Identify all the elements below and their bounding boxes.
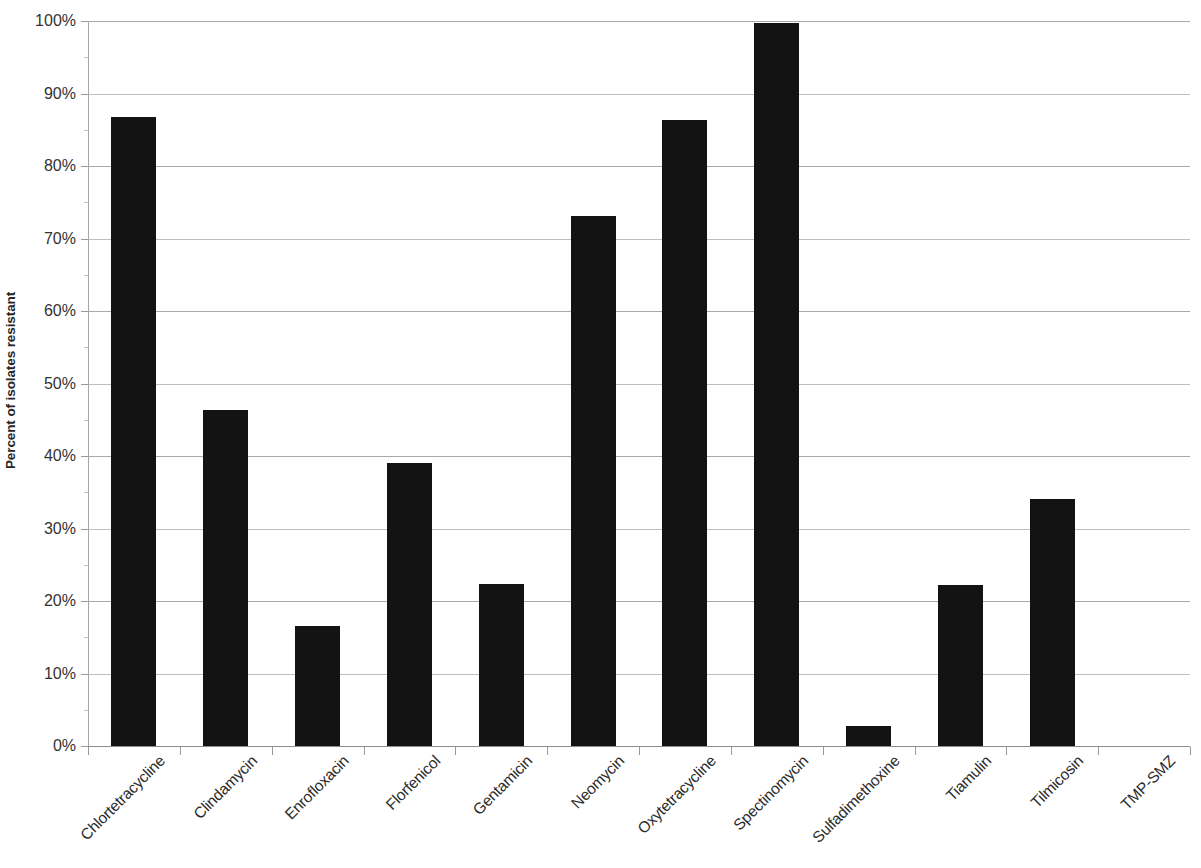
bar [295, 626, 340, 746]
bar [571, 216, 616, 746]
bar [846, 726, 891, 746]
y-axis-title-text: Percent of isolates resistant [4, 291, 19, 468]
gridline [88, 94, 1190, 95]
y-axis-tick-label: 40% [18, 448, 76, 464]
y-tick-mark [81, 384, 88, 385]
x-axis-label-text: Sulfadimethoxine [809, 752, 904, 847]
gridline [88, 166, 1190, 167]
y-axis-tick-label: 90% [18, 86, 76, 102]
y-axis-line [88, 21, 89, 747]
gridline [88, 674, 1190, 675]
x-axis-label-text: Clindamycin [190, 752, 261, 823]
y-tick-mark [81, 94, 88, 95]
bar [938, 585, 983, 746]
bar [111, 117, 156, 746]
y-tick-mark [81, 529, 88, 530]
y-tick-mark [81, 746, 88, 747]
x-axis-label-text: Enrofloxacin [281, 752, 352, 823]
gridline [88, 311, 1190, 312]
x-axis-label-text: Tilmicosin [1027, 752, 1087, 812]
bar [662, 120, 707, 746]
y-tick-mark [81, 674, 88, 675]
plot-area [88, 21, 1190, 746]
gridline [88, 601, 1190, 602]
gridline [88, 456, 1190, 457]
y-tick-mark [81, 601, 88, 602]
x-axis-label-text: Gentamicin [469, 752, 536, 819]
y-tick-mark [81, 456, 88, 457]
bar [203, 410, 248, 746]
y-tick-mark [81, 311, 88, 312]
bar [387, 463, 432, 746]
x-axis-label-text: Oxytetracycline [634, 752, 720, 838]
y-axis-tick-label: 20% [18, 593, 76, 609]
bar [479, 584, 524, 746]
bar [1030, 499, 1075, 746]
y-axis-tick-label: 30% [18, 521, 76, 537]
x-axis-line [88, 746, 1190, 747]
x-axis-label-text: Neomycin [567, 752, 627, 812]
gridline [88, 384, 1190, 385]
y-tick-mark [81, 239, 88, 240]
y-tick-mark [81, 21, 88, 22]
x-axis-label-text: Spectinomycin [729, 752, 811, 834]
x-axis-label-text: Chlortetracycline [77, 752, 169, 844]
y-axis-tick-label: 50% [18, 376, 76, 392]
x-axis-label-text: TMP-SMZ [1117, 752, 1179, 814]
x-axis-label-text: Tiamulin [943, 752, 996, 805]
y-axis-tick-label: 70% [18, 231, 76, 247]
x-axis-label-text: Florfenicol [382, 752, 444, 814]
gridline [88, 239, 1190, 240]
gridline [88, 21, 1190, 22]
x-axis-category-labels: ChlortetracyclineClindamycinEnrofloxacin… [0, 752, 1201, 868]
y-axis-tick-label: 10% [18, 666, 76, 682]
y-axis-tick-label: 80% [18, 158, 76, 174]
bar [754, 23, 799, 746]
y-tick-mark [81, 166, 88, 167]
y-axis-tick-label: 60% [18, 303, 76, 319]
bar-chart: Percent of isolates resistant 100%90%80%… [0, 0, 1201, 868]
y-axis-tick-label: 100% [18, 13, 76, 29]
gridline [88, 529, 1190, 530]
